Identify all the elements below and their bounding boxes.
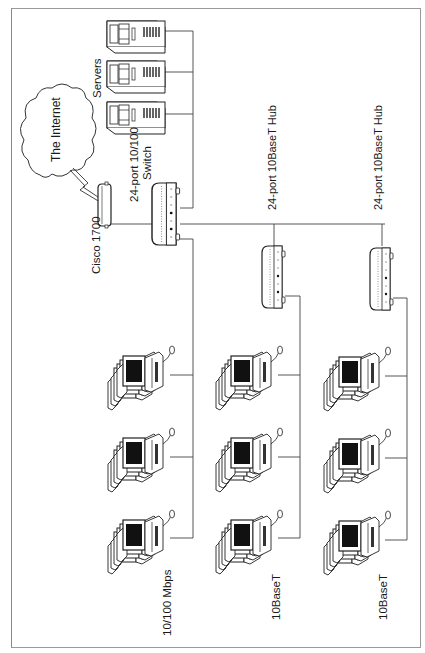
group1-label: 10/100 Mbps: [161, 570, 173, 637]
line-hub2-group3: [385, 298, 407, 540]
router-label: Cisco 1700: [90, 216, 102, 274]
hub1-label: 24-port 10BaseT Hub: [266, 105, 278, 210]
line-hub1-group2: [278, 296, 300, 538]
workstation-group-3: [324, 347, 391, 575]
workstation-group-1: [108, 346, 175, 574]
switch-label-line1: 24-port 10/100: [128, 127, 140, 202]
hub-icon: [262, 246, 285, 308]
line-switch-group1: [170, 239, 193, 538]
diagram-canvas: [0, 0, 425, 653]
server-icon: [107, 61, 165, 93]
group2-label: 10BaseT: [270, 574, 282, 620]
servers-label: Servers: [91, 58, 103, 98]
group3-label: 10BaseT: [377, 574, 389, 620]
switch-label-line2: Switch: [141, 146, 153, 180]
line-server1-switch: [165, 31, 193, 208]
workstation-group-2: [216, 346, 283, 574]
network-diagram: The Internet Cisco 1700 24-port 10/100 S…: [0, 0, 425, 653]
hub-icon: [370, 248, 393, 310]
lightning-bolt-icon: [70, 168, 101, 202]
switch-icon: [152, 183, 180, 245]
hub2-label: 24-port 10BaseT Hub: [372, 105, 384, 210]
server-icon: [107, 21, 165, 53]
internet-label: The Internet: [50, 97, 62, 162]
